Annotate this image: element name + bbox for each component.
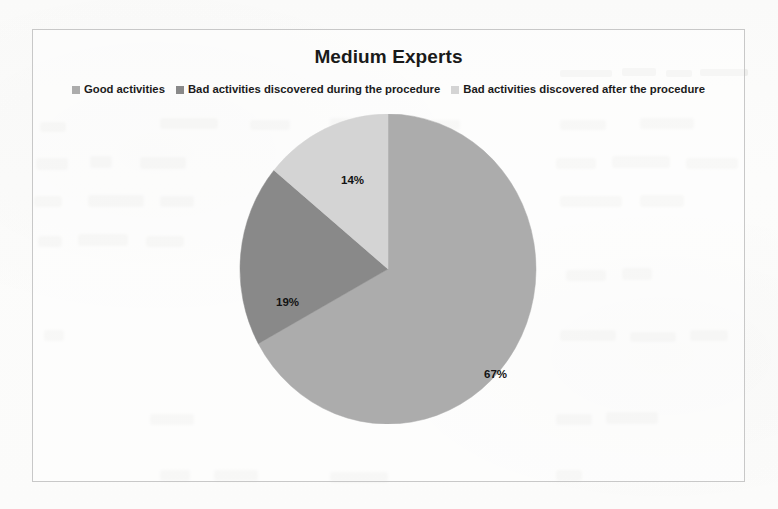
legend-square-icon [451, 86, 459, 94]
legend-item-good-activities[interactable]: Good activities [72, 84, 165, 95]
slice-label-good-activities: 67% [484, 368, 507, 380]
legend-item-bad-during[interactable]: Bad activities discovered during the pro… [176, 84, 440, 95]
pie-chart: 67% 19% 14% [238, 114, 538, 424]
slice-label-bad-during: 19% [276, 296, 299, 308]
chart-legend: Good activities Bad activities discovere… [33, 84, 744, 95]
legend-label-bad-after: Bad activities discovered after the proc… [463, 84, 705, 95]
legend-square-icon [72, 86, 80, 94]
chart-frame: Medium Experts Good activities Bad activ… [32, 29, 745, 482]
slice-label-bad-after: 14% [341, 174, 364, 186]
legend-item-bad-after[interactable]: Bad activities discovered after the proc… [451, 84, 705, 95]
chart-title: Medium Experts [33, 46, 744, 68]
legend-label-good-activities: Good activities [84, 84, 165, 95]
legend-square-icon [176, 86, 184, 94]
legend-label-bad-during: Bad activities discovered during the pro… [188, 84, 440, 95]
